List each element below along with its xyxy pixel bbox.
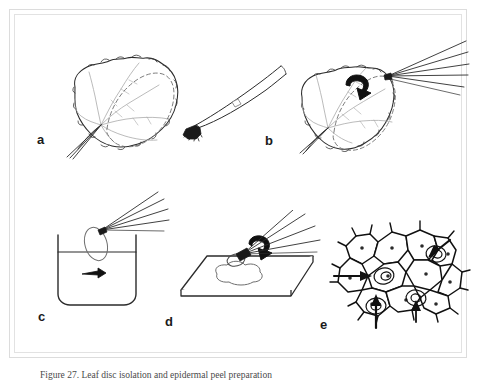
panel-label-c: c <box>38 310 45 323</box>
figure-caption: Figure 27. Leaf disc isolation and epide… <box>40 370 460 381</box>
panel-label-e: e <box>320 318 327 331</box>
panel-b-right-artwork <box>280 35 470 170</box>
figure-plate-inner-border: a b <box>14 14 462 353</box>
panel-e-epidermal-cells: e <box>320 210 475 330</box>
panel-b-forceps-brush-tool: b <box>180 49 295 159</box>
panel-label-d: d <box>165 315 173 328</box>
panel-b-right-leaf-with-tool <box>280 35 470 170</box>
panel-e-artwork <box>320 210 475 330</box>
panel-b-artwork <box>180 49 295 159</box>
panel-a-leaf-with-marked-region: a <box>37 37 197 162</box>
panel-a-artwork <box>37 37 197 162</box>
panel-d-microscope-slide: d <box>165 210 340 325</box>
panel-label-b: b <box>265 134 273 147</box>
figure-plate: a b <box>9 9 467 358</box>
panel-label-a: a <box>37 133 44 146</box>
panel-d-artwork <box>165 210 340 325</box>
panel-c-artwork <box>40 190 185 325</box>
panel-c-beaker-rinse: c <box>40 190 185 325</box>
